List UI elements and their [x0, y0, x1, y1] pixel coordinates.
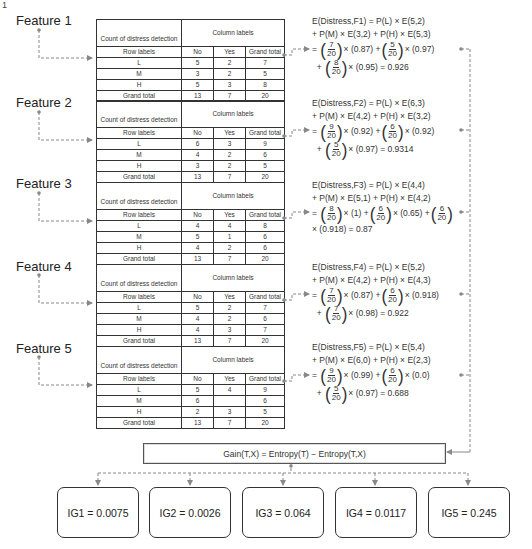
gain-formula-box: Gain(T,X) = Entropy(T) − Entropy(T,X)	[143, 443, 446, 464]
ig1-box: IG1 = 0.0075	[57, 487, 139, 538]
connector-lines	[0, 0, 532, 549]
ig5-box: IG5 = 0.245	[428, 487, 510, 538]
ig2-box: IG2 = 0.0026	[149, 487, 231, 538]
ig4-box: IG4 = 0.0117	[335, 487, 417, 538]
ig3-box: IG3 = 0.064	[242, 487, 324, 538]
